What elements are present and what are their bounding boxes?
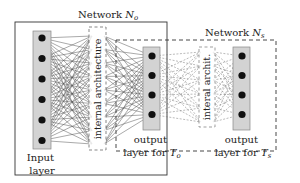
internal-architecture-s-label: interal archit. bbox=[201, 54, 212, 120]
output-s-node bbox=[238, 72, 245, 79]
output-o-node bbox=[148, 72, 155, 79]
output-layer-o-label: output layer for To bbox=[123, 134, 180, 160]
input-layer-label: Input layer bbox=[27, 152, 57, 176]
input-layer-box bbox=[33, 31, 51, 149]
input-node bbox=[38, 116, 45, 123]
output-s-node bbox=[238, 91, 245, 98]
input-node bbox=[38, 34, 45, 41]
output-s-node bbox=[238, 52, 245, 59]
internal-architecture-o-label: internal architecture bbox=[92, 38, 103, 139]
output-o-node bbox=[148, 52, 155, 59]
output-o-node bbox=[148, 91, 155, 98]
output-layer-s-label: output layer for Ts bbox=[215, 134, 272, 160]
output-s-node bbox=[238, 111, 245, 118]
input-node bbox=[38, 75, 45, 82]
input-node bbox=[38, 96, 45, 103]
network-diagram: Network No Network Ns Input layer intern… bbox=[0, 0, 300, 183]
network-s-title: Network Ns bbox=[205, 27, 265, 40]
output-o-node bbox=[148, 111, 155, 118]
input-node bbox=[38, 137, 45, 144]
input-node bbox=[38, 55, 45, 62]
network-o-title: Network No bbox=[78, 9, 138, 22]
